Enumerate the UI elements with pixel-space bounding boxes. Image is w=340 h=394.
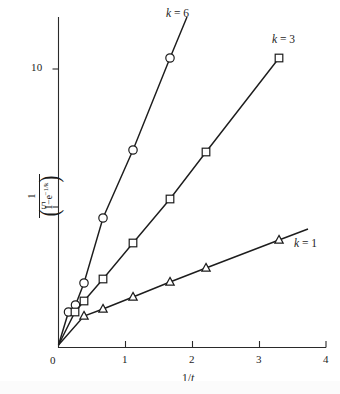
x-tick-label-1: 1 [122,354,128,365]
data-point [202,148,210,156]
y-axis-title-fraction: 1 (1−e−1/k) [27,174,59,219]
data-point [129,239,137,247]
series-label-k6-symbol: k [166,7,171,19]
data-point [166,54,174,62]
y-axis-denominator-minus: − [44,199,54,204]
paren-open-icon: ( [38,209,62,216]
paren-close-icon: ) [38,176,62,183]
series-label-k1-equals: = [302,237,309,249]
series-label-k6: k = 6 [166,8,189,20]
y-tick-label-10: 10 [31,62,42,73]
series-label-k1: k = 1 [294,238,317,250]
series-label-k3-equals: = [280,33,287,45]
y-axis-title-denominator: (1−e−1/k) [40,174,59,219]
scan-artifact-band [0,381,340,394]
figure-chart-reciprocal-vs-inverse-time: 10 5 0 1 2 3 4 1/t 1 (1−e−1/k) k = 6 k =… [0,0,340,394]
series-label-k1-symbol: k [294,237,299,249]
series-k6 [59,17,188,345]
series-label-k3: k = 3 [272,34,295,46]
series-label-k6-equals: = [174,7,181,19]
series-k6-line [59,17,188,345]
series-label-k3-value: 3 [289,33,295,45]
data-point [71,308,79,316]
data-point [99,275,107,283]
x-tick-label-3: 3 [256,354,262,365]
series-label-k6-value: 6 [183,7,189,19]
y-axis-title: 1 (1−e−1/k) [27,161,59,231]
data-point [166,195,174,203]
data-point [275,54,283,62]
data-point [99,214,107,222]
axis-ticks [53,69,327,348]
x-tick-label-4: 4 [323,354,329,365]
series-k6-markers [64,54,174,316]
y-axis-title-wrap: 1 (1−e−1/k) [2,160,72,230]
data-point [129,146,137,154]
x-tick-label-0: 0 [50,355,56,366]
x-tick-label-2: 2 [189,354,195,365]
series-k3 [59,54,283,345]
y-axis-denominator-base: e [44,195,54,199]
axis-spines [59,17,327,348]
data-point [80,297,88,305]
data-point [80,279,88,287]
series-label-k1-value: 1 [311,237,317,249]
series-label-k3-symbol: k [272,33,277,45]
y-axis-denominator-exponent: −1/k [42,183,49,196]
